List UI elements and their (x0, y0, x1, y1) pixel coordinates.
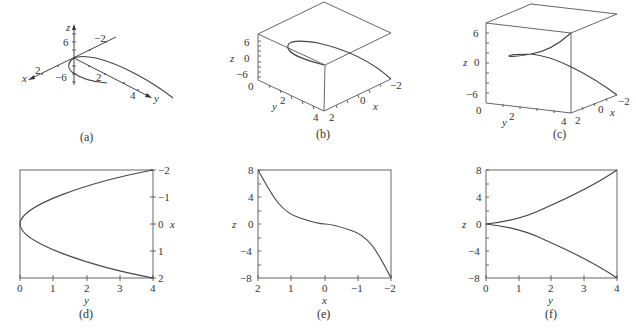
b-y-tick-4: 4 (313, 111, 319, 123)
c-z-tick-6: 6 (473, 27, 479, 39)
c-y-tick-4: 4 (561, 115, 567, 127)
a-x-tick-2: 2 (35, 64, 41, 76)
panel-a: z 6 −6 −2 2 x 2 4 y (a) (21, 21, 173, 144)
a-x-label: x (21, 72, 27, 84)
f-xtick-0: 0 (483, 282, 489, 294)
d-ytick-1: 1 (158, 245, 164, 257)
a-x-tick-neg2: −2 (94, 32, 106, 44)
e-ytick-neg4: −4 (240, 245, 252, 257)
x-axis-arrow-icon (28, 75, 35, 80)
d-xtick-1: 1 (50, 282, 56, 294)
f-panel-label: (f) (545, 307, 557, 321)
c-z-tick-0: 0 (474, 56, 480, 68)
d-ytick-neg1: −1 (158, 191, 170, 203)
c-y-tick-2: 2 (509, 110, 515, 122)
b-x-tick-2: 2 (329, 111, 335, 123)
b-y-tick-2: 2 (280, 94, 286, 106)
f-ytick-neg8: −8 (468, 272, 480, 284)
c-curve (509, 33, 617, 95)
f-ylabel: z (461, 218, 467, 230)
f-ytick-8: 8 (476, 164, 482, 176)
e-panel-label: (e) (317, 307, 330, 321)
b-x-label: x (372, 100, 378, 112)
b-z-tick-6: 6 (244, 36, 250, 48)
y-axis-arrow-icon (145, 93, 152, 98)
e-xtick-neg1: −1 (351, 282, 363, 294)
c-y-tick-0: 0 (476, 104, 482, 116)
e-xtick-0: 0 (322, 282, 328, 294)
a-panel-label: (a) (80, 130, 93, 144)
panel-b: 6 z 0 −6 0 y 2 4 2 0 x −2 (b) (229, 2, 402, 141)
e-xtick-neg2: −2 (384, 282, 396, 294)
f-ytick-neg4: −4 (468, 245, 480, 257)
e-xtick-2: 2 (255, 282, 261, 294)
b-z-label: z (229, 52, 235, 64)
d-curve (20, 170, 153, 278)
panel-c: 6 z 0 −6 0 y 2 4 2 0 x −2 (c) (462, 4, 630, 141)
a-y-tick-4: 4 (130, 89, 136, 101)
c-x-tick-2: 2 (575, 114, 581, 126)
a-z-tick-6: 6 (63, 36, 69, 48)
d-xtick-3: 3 (117, 282, 123, 294)
b-x-tick-neg2: −2 (390, 79, 402, 91)
c-x-tick-neg2: −2 (618, 95, 630, 107)
e-ytick-4: 4 (248, 191, 254, 203)
d-xtick-0: 0 (17, 282, 23, 294)
y-axis (74, 58, 150, 97)
f-ytick-0: 0 (476, 218, 482, 230)
panel-f: 0 1 2 3 4 y 8 4 0 −4 −8 z (f) (461, 164, 620, 321)
b-box-top (258, 2, 391, 65)
f-xtick-1: 1 (516, 282, 522, 294)
f-curve-upper (486, 170, 617, 224)
f-curve-lower (486, 224, 617, 278)
f-xtick-4: 4 (614, 282, 620, 294)
e-ytick-0: 0 (248, 218, 254, 230)
b-y-label: y (271, 100, 277, 112)
b-panel-label: (b) (316, 127, 330, 141)
b-z-tick-0: 0 (244, 52, 250, 64)
c-x-label: x (609, 106, 615, 118)
e-curve (258, 170, 391, 278)
f-plot-frame (486, 170, 617, 278)
e-ylabel: z (231, 218, 237, 230)
z-axis-arrow-icon (72, 24, 76, 30)
b-curve (288, 41, 391, 79)
c-y-label: y (501, 116, 507, 128)
e-ytick-neg8: −8 (240, 272, 252, 284)
f-xlabel: y (547, 294, 553, 306)
a-z-label: z (65, 21, 71, 33)
c-panel-label: (c) (553, 127, 566, 141)
d-xtick-2: 2 (84, 282, 90, 294)
d-panel-label: (d) (79, 307, 93, 321)
b-z-tick-neg6: −6 (236, 68, 248, 80)
b-y-tick-0: 0 (248, 80, 254, 92)
d-ytick-neg2: −2 (158, 164, 170, 176)
d-xtick-4: 4 (150, 282, 156, 294)
e-ytick-8: 8 (248, 164, 254, 176)
a-y-label: y (153, 92, 159, 104)
c-box-top (486, 4, 617, 33)
a-z-tick-neg6: −6 (55, 71, 67, 83)
f-xtick-2: 2 (548, 282, 554, 294)
c-x-tick-0: 0 (598, 103, 604, 115)
d-xlabel: y (83, 294, 89, 306)
c-z-label: z (462, 56, 468, 68)
figure-twisted-cubic: z 6 −6 −2 2 x 2 4 y (a) (0, 0, 636, 335)
e-xlabel: x (321, 294, 327, 306)
d-ylabel: x (169, 218, 175, 230)
a-y-tick-2: 2 (96, 71, 102, 83)
panel-e: 2 1 0 −1 −2 x 8 4 0 −4 −8 z (e) (231, 164, 396, 321)
e-xtick-1: 1 (288, 282, 294, 294)
panel-d: 0 1 2 3 4 y −2 −1 0 1 2 x (d) (17, 164, 175, 321)
d-ytick-2: 2 (158, 272, 164, 284)
c-z-tick-neg6: −6 (466, 88, 478, 100)
d-ytick-0: 0 (158, 218, 164, 230)
b-x-tick-0: 0 (360, 94, 366, 106)
f-ytick-4: 4 (476, 191, 482, 203)
f-xtick-3: 3 (581, 282, 587, 294)
